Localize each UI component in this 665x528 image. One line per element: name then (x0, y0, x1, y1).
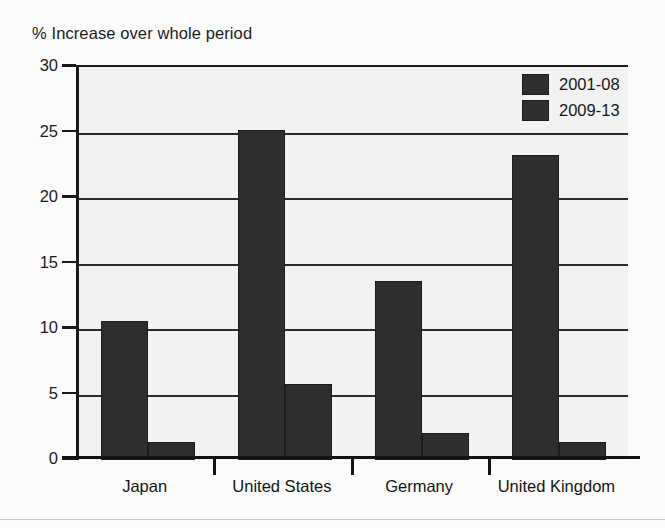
y-axis-tick-label: 5 (12, 383, 58, 402)
legend-swatch-icon (522, 100, 549, 121)
x-axis-separator-tick (488, 459, 491, 475)
y-axis-tick (62, 261, 76, 264)
y-axis-tick (62, 130, 76, 133)
legend-label: 2001-08 (559, 75, 620, 94)
y-axis-tick (62, 64, 76, 67)
x-axis-category-label: Japan (122, 477, 167, 496)
bar (285, 384, 332, 460)
y-axis-tick (62, 392, 76, 395)
legend-item: 2009-13 (522, 98, 626, 122)
bar (101, 321, 148, 460)
legend-swatch-icon (522, 74, 549, 95)
x-axis-separator-tick (213, 459, 216, 475)
x-axis-separator-tick (351, 459, 354, 475)
gridline (79, 133, 628, 135)
y-axis-labels: 302520151050 (0, 0, 58, 528)
y-axis-tick-label: 20 (12, 187, 58, 206)
x-axis-category-label: Germany (385, 477, 453, 496)
bar-chart: % Increase over whole period 30252015105… (0, 0, 665, 528)
x-axis-category-label: United Kingdom (498, 477, 615, 496)
bottom-divider (0, 519, 665, 520)
legend-item: 2001-08 (522, 72, 626, 96)
y-axis-tick (62, 326, 76, 329)
y-axis-tick-label: 25 (12, 121, 58, 140)
bar (512, 155, 559, 460)
legend-label: 2009-13 (559, 101, 620, 120)
y-axis-tick-label: 10 (12, 318, 58, 337)
y-axis-tick-label: 30 (12, 56, 58, 75)
y-axis-tick (62, 195, 76, 198)
y-axis-tick-label: 15 (12, 252, 58, 271)
bar (238, 130, 285, 460)
x-axis-category-label: United States (232, 477, 331, 496)
bar (375, 281, 422, 460)
legend: 2001-08 2009-13 (518, 68, 626, 130)
y-axis-tick-label: 0 (12, 449, 58, 468)
chart-title: % Increase over whole period (32, 24, 252, 43)
